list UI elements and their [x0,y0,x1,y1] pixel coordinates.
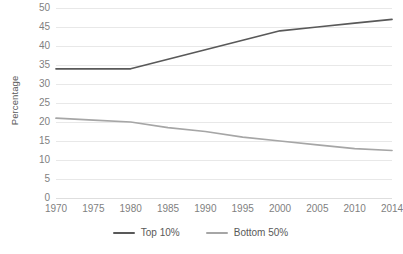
x-axis-tick-label: 1990 [194,202,216,215]
y-axis-tick-label: 5 [24,174,50,184]
legend-item-label: Bottom 50% [234,228,288,238]
y-axis-tick-label: 25 [24,98,50,108]
gridline [56,198,392,199]
series-container [56,8,392,198]
series-line [56,118,392,150]
x-axis-tick-label: 1980 [120,202,142,215]
y-axis-tick-labels: 05101520253035404550 [24,8,50,198]
x-axis-tick-labels: 1970197519801985199019952000200520102014 [56,202,392,218]
y-axis-tick-label: 35 [24,60,50,70]
x-axis-tick-label: 2010 [344,202,366,215]
legend-item-label: Top 10% [141,228,180,238]
x-axis-tick-label: 1985 [157,202,179,215]
y-axis-title-label: Percentage [10,75,21,125]
y-axis-tick-label: 50 [24,3,50,13]
x-axis-tick-label: 1970 [45,202,67,215]
plot-area [56,8,392,198]
chart-legend: Top 10%Bottom 50% [0,228,401,238]
y-axis-tick-label: 15 [24,136,50,146]
x-axis-tick-label: 2000 [269,202,291,215]
y-axis-title: Percentage [8,0,22,200]
y-axis-tick-label: 20 [24,117,50,127]
y-axis-tick-label: 30 [24,79,50,89]
x-axis-tick-label: 1975 [82,202,104,215]
series-line [56,19,392,68]
legend-line-icon [206,232,228,234]
y-axis-tick-label: 45 [24,22,50,32]
legend-item[interactable]: Top 10% [113,228,180,238]
y-axis-tick-label: 40 [24,41,50,51]
y-axis-tick-label: 10 [24,155,50,165]
x-axis-tick-label: 2014 [381,202,403,215]
legend-item[interactable]: Bottom 50% [206,228,288,238]
legend-line-icon [113,232,135,234]
x-axis-tick-label: 1995 [232,202,254,215]
x-axis-tick-label: 2005 [306,202,328,215]
